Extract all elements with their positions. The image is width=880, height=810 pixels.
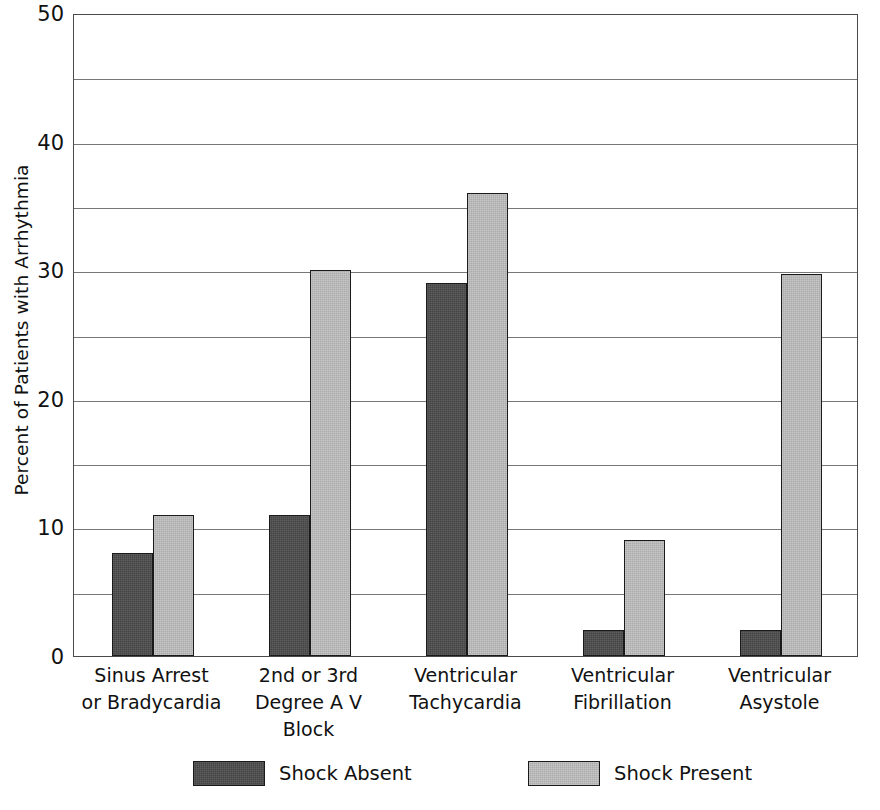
bar-shock-absent [740,630,781,656]
x-category-label: VentricularTachycardia [387,662,544,716]
bar-shock-present [310,270,351,656]
x-category-label: VentricularFibrillation [544,662,701,716]
x-category-label-line: 2nd or 3rd [230,662,387,689]
x-category-label-line: Degree A V [230,689,387,716]
bar-shock-present [153,515,194,656]
y-tick-label: 40 [28,132,64,153]
bar-shock-present [781,274,822,656]
bar-shock-absent [112,553,153,656]
x-category-label: 2nd or 3rdDegree A VBlock [230,662,387,743]
x-category-label-line: Block [230,716,387,743]
x-axis-category-labels: Sinus Arrestor Bradycardia2nd or 3rdDegr… [73,662,858,752]
plot-area [73,14,858,657]
bar-shock-absent [269,515,310,656]
x-category-label-line: Ventricular [701,662,858,689]
x-category-label-line: Fibrillation [544,689,701,716]
x-category-label-line: Sinus Arrest [73,662,230,689]
y-tick-label: 10 [28,518,64,539]
legend-label: Shock Absent [279,762,412,785]
x-category-label-line: Asystole [701,689,858,716]
x-category-label-line: Ventricular [387,662,544,689]
y-tick-label: 30 [28,261,64,282]
bar-shock-absent [426,283,467,656]
x-category-label: Sinus Arrestor Bradycardia [73,662,230,716]
bar-shock-absent [583,630,624,656]
legend-label: Shock Present [614,762,752,785]
x-category-label-line: Tachycardia [387,689,544,716]
y-axis-tick-labels: 01020304050 [26,0,64,810]
x-category-label-line: or Bradycardia [73,689,230,716]
bars-layer [74,15,857,656]
bar-shock-present [624,540,665,656]
legend-swatch-icon [528,761,600,786]
x-category-label-line: Ventricular [544,662,701,689]
legend-entry-shock-absent[interactable]: Shock Absent [193,758,412,788]
chart-legend: Shock AbsentShock Present [73,758,858,794]
y-tick-label: 50 [28,4,64,25]
legend-entry-shock-present[interactable]: Shock Present [528,758,752,788]
y-tick-label: 0 [28,647,64,668]
y-tick-label: 20 [28,389,64,410]
bar-chart-figure: Percent of Patients with Arrhythmia 0102… [0,0,880,810]
legend-swatch-icon [193,761,265,786]
bar-shock-present [467,193,508,656]
x-category-label: VentricularAsystole [701,662,858,716]
